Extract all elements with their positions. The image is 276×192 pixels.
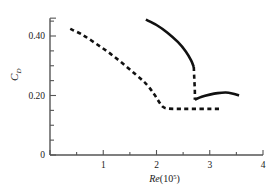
y-tick-label: 0 [40,150,45,160]
x-tick-label: 2 [154,160,159,170]
x-tick-label: 1 [101,160,106,170]
x-axis-title-paren-open: (10 [160,173,173,185]
x-axis-title-base: Re [148,173,160,184]
chart-canvas: 00.200.401234Re(105)CD [0,0,276,192]
drag-coefficient-chart: 00.200.401234Re(105)CD [0,0,276,192]
y-tick-label: 0.20 [28,91,45,101]
series-lower-solid-branch [195,93,239,100]
x-axis-title: Re(105) [148,173,179,185]
series-upper-solid-branch [146,20,194,67]
y-axis-title-subscript: D [15,68,23,74]
x-tick-label: 4 [261,160,266,170]
series-transition-drop-dashed [194,67,195,100]
x-axis-title-paren-close: ) [176,173,179,185]
y-axis-title: CD [8,68,23,80]
x-tick-label: 3 [207,160,212,170]
svg-text:CD: CD [8,68,23,80]
y-tick-label: 0.40 [28,31,45,41]
